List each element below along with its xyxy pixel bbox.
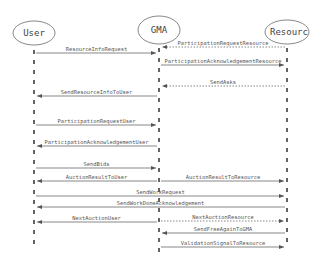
sequence-diagram: User GMA Resourc ParticipationRequestRes…	[0, 0, 322, 272]
message-label: SendWorkRequest	[136, 189, 185, 196]
message-label: ValidationSignalToResource	[181, 240, 265, 247]
actor-user-label: User	[23, 28, 45, 38]
actor-gma-label: GMA	[151, 25, 168, 35]
message-label: NextAuctionUser	[72, 215, 121, 221]
message-arrow: ParticipationAcknowledgementResource	[161, 58, 284, 66]
actor-gma: GMA	[138, 16, 180, 44]
message-arrow: ParticipationAcknowledgementUser	[37, 139, 157, 147]
message-arrow: SendBids	[36, 161, 156, 169]
message-arrow: AuctionResultToResource	[161, 174, 284, 182]
message-arrow: ResourceInfoRequest	[36, 46, 156, 54]
message-label: ParticipationAcknowledgementResource	[165, 58, 282, 65]
message-arrow: ParticipationRequestUser	[36, 118, 156, 126]
message-arrow: ParticipationRequestResource	[162, 40, 285, 48]
message-arrow: SendResourceInfoToUser	[37, 89, 157, 97]
message-arrow: SendAsks	[162, 79, 285, 87]
message-label: NextAuctionResource	[192, 214, 254, 220]
message-arrow: SendWorkRequest	[36, 189, 284, 197]
actor-resource-label: Resourc	[270, 27, 308, 37]
message-label: ParticipationRequestResource	[178, 40, 269, 47]
message-label: AuctionResultToResource	[186, 174, 261, 180]
message-label: ParticipationAcknowledgementUser	[45, 139, 150, 146]
message-label: AuctionResultToUser	[66, 174, 128, 180]
actor-user: User	[13, 21, 55, 45]
message-arrow: NextAuctionResource	[161, 214, 284, 222]
message-label: ResourceInfoRequest	[66, 46, 128, 53]
message-label: SendBids	[84, 161, 110, 167]
message-arrow: NextAuctionUser	[37, 215, 157, 223]
message-label: SendResourceInfoToUser	[61, 89, 133, 95]
message-arrow: ValidationSignalToResource	[161, 240, 284, 248]
messages: ParticipationRequestResourceResourceInfo…	[36, 40, 285, 248]
message-label: SendWorkDoneAcknowledgement	[117, 200, 205, 207]
message-label: SendAsks	[210, 79, 236, 85]
message-label: SendFreeAgainToGMA	[194, 226, 253, 233]
message-arrow: SendFreeAgainToGMA	[162, 226, 285, 234]
message-arrow: AuctionResultToUser	[37, 174, 157, 182]
actor-resource: Resourc	[265, 20, 309, 44]
message-label: ParticipationRequestUser	[58, 118, 137, 125]
message-arrow: SendWorkDoneAcknowledgement	[37, 200, 285, 208]
